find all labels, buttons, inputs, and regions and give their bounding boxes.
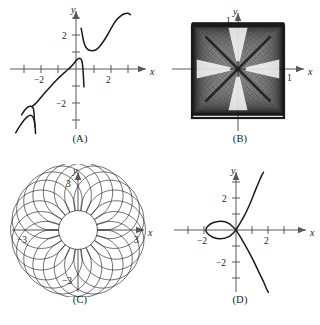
panel-d-y-axis-label: y — [230, 165, 236, 176]
panel-c-plot: x y −3 3 3 −3 — [4, 164, 156, 297]
panel-c-svg: x y −3 3 3 −3 — [4, 164, 156, 297]
panel-c-ytick-3: 3 — [66, 179, 71, 189]
panel-d-svg: x y −2 2 2 −2 — [164, 164, 316, 297]
panel-b: x y 1 1 (B) — [160, 0, 320, 162]
panel-a-xtick-2: 2 — [106, 75, 111, 85]
panel-d-ytick-2: 2 — [222, 194, 227, 204]
panel-d-axes — [174, 172, 306, 292]
panel-b-ytick-1: 1 — [226, 16, 231, 26]
panel-c-xtick-neg3: −3 — [17, 235, 27, 245]
panel-c-y-axis-label: y — [72, 165, 78, 176]
panel-d-xtick-neg2: −2 — [197, 236, 207, 246]
panel-c: x y −3 3 3 −3 (C) — [0, 162, 160, 325]
panel-a-ytick-2: 2 — [62, 31, 67, 41]
panel-d-curve-group — [206, 172, 268, 292]
panel-c-ytick-neg3: −3 — [62, 276, 72, 286]
panel-b-y-axis-label: y — [232, 6, 238, 17]
panel-b-x-axis-label: x — [307, 66, 313, 77]
panel-b-plot: x y 1 1 — [164, 3, 316, 136]
panel-a: x y −2 2 2 −2 (A) — [0, 0, 160, 162]
panel-d: x y −2 2 2 −2 (D) — [160, 162, 320, 325]
panel-d-x-axis-label: x — [309, 227, 315, 238]
x-axis-arrowhead — [298, 227, 306, 234]
panel-d-xtick-2: 2 — [264, 236, 269, 246]
panel-d-plot: x y −2 2 2 −2 — [164, 164, 316, 297]
x-axis-arrowhead — [138, 66, 146, 73]
panel-a-y-axis-label: y — [70, 4, 76, 15]
panel-b-lissajous — [192, 23, 284, 115]
panel-d-ytick-neg2: −2 — [216, 258, 226, 268]
panel-a-ytick-neg2: −2 — [56, 99, 66, 109]
panel-a-axes — [10, 11, 146, 129]
panel-a-curve-group — [16, 13, 131, 133]
panel-b-xtick-1: 1 — [287, 73, 292, 83]
panel-a-svg: x y −2 2 2 −2 — [4, 3, 156, 136]
panel-c-xtick-3: 3 — [134, 235, 139, 245]
panel-a-plot: x y −2 2 2 −2 — [4, 3, 156, 136]
figure-panel-grid: x y −2 2 2 −2 (A) x — [0, 0, 320, 325]
panel-c-x-axis-label: x — [147, 227, 153, 238]
panel-b-svg: x y 1 1 — [164, 3, 316, 136]
x-axis-arrowhead — [296, 66, 304, 73]
panel-a-xtick-neg2: −2 — [34, 75, 44, 85]
panel-a-x-axis-label: x — [149, 66, 155, 77]
